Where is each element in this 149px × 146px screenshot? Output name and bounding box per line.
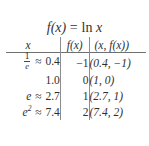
header-point: (x, f(x)) <box>89 37 146 53</box>
exponent: 2 <box>28 104 32 113</box>
cell-fx: 2 <box>60 104 89 120</box>
cell-fx: 0 <box>60 72 89 88</box>
fx-value: −1 <box>76 57 88 69</box>
cell-point: (7.4, 2) <box>89 104 146 120</box>
approx-sign: ≈ <box>34 106 42 118</box>
point-value: (1, 0) <box>90 74 115 86</box>
cell-fx: 1 <box>60 88 89 104</box>
cell-x: 1 e ≈ 0.4 <box>6 53 60 73</box>
fx-value: 1 <box>83 90 89 102</box>
ln-function-table-figure: f(x) = ln x x f(x) (x, f(x)) 1 e ≈ 0.4 <box>0 0 149 146</box>
fx-value: 2 <box>83 106 89 118</box>
x-value: 7.4 <box>45 106 59 118</box>
title-log-argument: x <box>96 20 102 35</box>
title-log-operator: ln <box>82 20 93 35</box>
x-value: 1.0 <box>45 74 59 86</box>
title-function: f(x) <box>47 20 66 35</box>
title-equals: = <box>70 20 78 35</box>
approx-sign: ≈ <box>34 90 42 102</box>
cell-point: (2.7, 1) <box>89 88 146 104</box>
cell-x: 1.0 <box>6 72 60 88</box>
cell-point: (1, 0) <box>89 72 146 88</box>
cell-x: e ≈ 2.7 <box>6 88 60 104</box>
table-row: 1 e ≈ 0.4 −1 (0.4, −1) <box>6 53 146 73</box>
approx-sign: ≈ <box>34 55 42 67</box>
fraction-denominator: e <box>24 62 31 71</box>
cell-x: e2 ≈ 7.4 <box>6 104 60 120</box>
table-row: e2 ≈ 7.4 2 (7.4, 2) <box>6 104 146 120</box>
x-value: 2.7 <box>45 90 59 102</box>
euler-symbol: e <box>26 90 31 102</box>
table-row: 1.0 0 (1, 0) <box>6 72 146 88</box>
header-x: x <box>6 37 60 53</box>
fx-value: 0 <box>83 74 89 86</box>
point-value: (7.4, 2) <box>90 106 124 118</box>
values-table: x f(x) (x, f(x)) 1 e ≈ 0.4 −1 (0.4, −1 <box>6 37 146 120</box>
point-value: (0.4, −1) <box>90 57 131 69</box>
point-value: (2.7, 1) <box>90 90 124 102</box>
cell-fx: −1 <box>60 53 89 73</box>
figure-title: f(x) = ln x <box>0 20 149 36</box>
header-fx: f(x) <box>60 37 89 53</box>
table-row: e ≈ 2.7 1 (2.7, 1) <box>6 88 146 104</box>
x-value: 0.4 <box>45 55 59 67</box>
cell-point: (0.4, −1) <box>89 53 146 73</box>
fraction-one-over-e: 1 e <box>24 52 31 71</box>
